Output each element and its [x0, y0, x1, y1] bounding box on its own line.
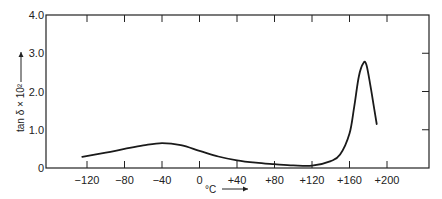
- svg-text:°C: °C: [205, 184, 216, 195]
- svg-text:tan δ × 10²: tan δ × 10²: [15, 83, 26, 132]
- x-tick-label: +120: [300, 174, 325, 186]
- y-tick-label: 4.0: [29, 9, 44, 21]
- y-axis-title: tan δ × 10²: [15, 52, 26, 132]
- x-tick-label: 0: [196, 174, 202, 186]
- y-tick-label: 3.0: [29, 47, 44, 59]
- chart: −120−80−400+40+80+120+160+200 01.02.03.0…: [0, 0, 442, 199]
- x-tick-label: −40: [153, 174, 172, 186]
- x-tick-label: +80: [265, 174, 284, 186]
- x-tick-label: −120: [75, 174, 100, 186]
- x-tick-label: +200: [375, 174, 400, 186]
- y-tick-label: 1.0: [29, 124, 44, 136]
- data-curve: [82, 62, 376, 166]
- x-tick-label: +160: [337, 174, 362, 186]
- x-tick-label: +40: [228, 174, 247, 186]
- y-tick-label: 2.0: [29, 86, 44, 98]
- y-tick-label: 0: [38, 162, 44, 174]
- y-axis: 01.02.03.04.0: [29, 9, 429, 174]
- x-tick-label: −80: [115, 174, 134, 186]
